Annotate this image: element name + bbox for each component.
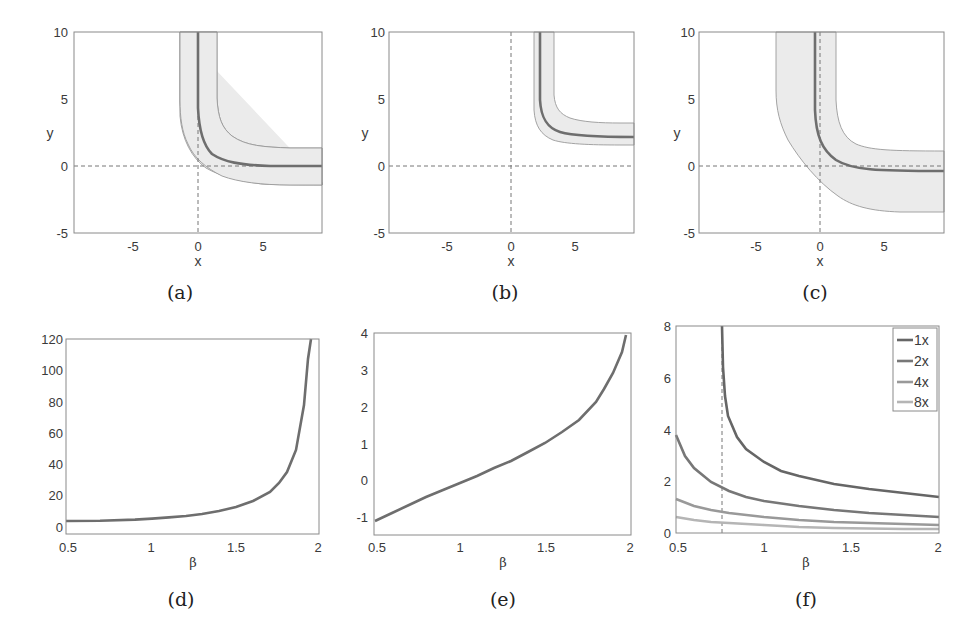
panel-b-xtick: 5 [571, 239, 578, 254]
panel-e-xtick: 1 [456, 540, 463, 555]
panel-f-ytick: 8 [664, 319, 671, 334]
panel-f-curve-2x [676, 435, 939, 517]
panel-d-xtick: 1.5 [227, 540, 245, 555]
panel-f-legend: 1x 2x 4x 8x [893, 328, 937, 411]
panel-b: 10 5 0 -5 -5 0 5 x y (b) [362, 25, 635, 303]
panel-c: 10 5 0 -5 -5 0 5 x y (c) [674, 25, 945, 303]
panel-a-ytick: 10 [54, 25, 68, 40]
panel-e-ytick: 2 [361, 400, 368, 415]
panel-b-ytick: 0 [378, 159, 385, 174]
panel-b-ytick: 10 [371, 25, 385, 40]
figure-canvas: 10 5 0 -5 -5 0 5 x y (a) 10 5 0 -5 -5 0 … [0, 0, 976, 639]
legend-label-4x: 4x [914, 374, 929, 390]
panel-b-caption: (b) [492, 281, 519, 303]
panel-f-xtick: 1.5 [842, 540, 860, 555]
panel-d: 120 100 80 60 40 20 0 0.5 1 1.5 2 β (d) [41, 332, 321, 610]
panel-c-ytick: 0 [688, 159, 695, 174]
panel-d-xlabel: β [189, 555, 197, 570]
panel-f: 1x 2x 4x 8x 8 6 4 2 0 0.5 1 1.5 2 β (f) [664, 319, 942, 610]
panel-e-ytick: 3 [361, 363, 368, 378]
panel-c-ytick: 5 [688, 92, 695, 107]
panel-f-ytick: 2 [664, 474, 671, 489]
panel-b-xtick: -5 [441, 239, 453, 254]
panel-c-ytick: -5 [683, 226, 695, 241]
panel-d-ytick: 0 [56, 520, 63, 535]
panel-f-ytick: 4 [664, 423, 671, 438]
panel-d-caption: (d) [168, 588, 195, 610]
panel-e-ytick: -1 [356, 510, 368, 525]
panel-d-xtick: 2 [314, 540, 321, 555]
panel-f-xtick: 1 [760, 540, 767, 555]
panel-b-band [534, 32, 634, 145]
panel-f-xlabel: β [802, 555, 810, 570]
panel-d-curve [66, 339, 311, 521]
panel-d-frame [66, 339, 319, 534]
panel-b-ylabel: y [362, 125, 369, 141]
panel-c-xlabel: x [817, 253, 824, 269]
panel-f-caption: (f) [795, 588, 817, 610]
panel-e-ytick: 1 [361, 437, 368, 452]
panel-d-ytick: 80 [49, 395, 63, 410]
panel-e-xtick: 2 [626, 540, 633, 555]
panel-d-ytick: 120 [41, 332, 63, 347]
panel-f-ytick: 0 [664, 526, 671, 541]
panel-a-ylabel: y [47, 125, 54, 141]
panel-e-xtick: 0.5 [368, 540, 386, 555]
panel-d-ytick: 20 [49, 488, 63, 503]
panel-c-xtick: -5 [750, 239, 762, 254]
panel-c-caption: (c) [802, 281, 827, 303]
panel-c-xtick: 5 [880, 239, 887, 254]
panel-a-xtick: 5 [259, 239, 266, 254]
panel-d-ytick: 100 [41, 363, 63, 378]
panel-c-ylabel: y [674, 125, 681, 141]
panel-b-ytick: -5 [373, 226, 385, 241]
panel-f-ytick: 6 [664, 371, 671, 386]
panel-a-ytick: 5 [61, 92, 68, 107]
panel-c-ytick: 10 [681, 25, 695, 40]
panel-a-caption: (a) [167, 281, 193, 303]
panel-e-ytick: 4 [361, 326, 368, 341]
panel-a-xtick: 0 [194, 239, 201, 254]
panel-b-xlabel: x [508, 253, 515, 269]
panel-b-xtick: 0 [507, 239, 514, 254]
panel-a: 10 5 0 -5 -5 0 5 x y (a) [47, 25, 323, 303]
panel-a-xlabel: x [195, 253, 202, 269]
panel-d-xtick: 0.5 [59, 540, 77, 555]
panel-b-ytick: 5 [378, 92, 385, 107]
legend-label-8x: 8x [914, 394, 929, 410]
panel-e-curve [375, 335, 626, 521]
panel-f-xtick: 0.5 [669, 540, 687, 555]
panel-c-band [776, 32, 944, 212]
legend-label-2x: 2x [914, 353, 929, 369]
panel-e-xlabel: β [499, 555, 507, 570]
panel-e-caption: (e) [490, 588, 516, 610]
panel-c-xtick: 0 [816, 239, 823, 254]
panel-e-ytick: 0 [361, 473, 368, 488]
panel-f-xtick: 2 [934, 540, 941, 555]
panel-d-xtick: 1 [147, 540, 154, 555]
panel-a-ytick: -5 [56, 226, 68, 241]
panel-a-xtick: -5 [127, 239, 139, 254]
panel-e-xtick: 1.5 [537, 540, 555, 555]
legend-label-1x: 1x [914, 332, 929, 348]
panel-e: 4 3 2 1 0 -1 0.5 1 1.5 2 β (e) [356, 326, 633, 610]
panel-d-ytick: 40 [49, 457, 63, 472]
panel-d-ytick: 60 [49, 426, 63, 441]
panel-a-ytick: 0 [61, 159, 68, 174]
